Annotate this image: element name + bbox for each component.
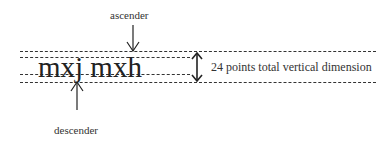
descender-label: descender [54, 124, 98, 136]
ascender-arrow-icon [127, 25, 139, 51]
descender-arrow-icon [71, 82, 83, 110]
dimension-label: 24 points total vertical dimension [211, 60, 372, 75]
double-arrow-icon [192, 53, 202, 81]
